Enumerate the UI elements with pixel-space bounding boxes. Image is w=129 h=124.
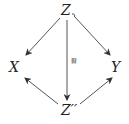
arrow-z-to-y — [74, 16, 110, 55]
node-z-double-prime: Z′′ — [61, 103, 77, 117]
arrow-zpp-to-y — [80, 78, 112, 104]
arrow-zpp-to-x — [25, 78, 58, 104]
node-x: X — [9, 60, 19, 74]
node-y: Y — [111, 60, 120, 74]
arrow-z-to-x — [26, 18, 60, 55]
node-z: Z — [61, 3, 71, 17]
isomorphism-label: ≅ — [69, 57, 79, 65]
